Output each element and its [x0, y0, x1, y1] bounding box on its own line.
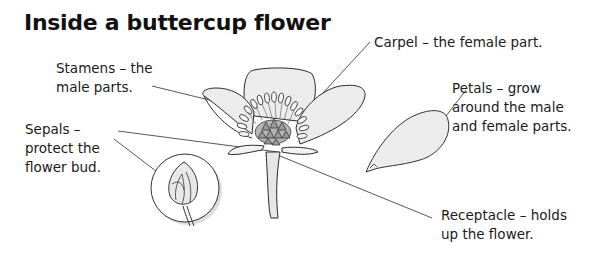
receptacle-label-line: up the flower. [441, 225, 567, 244]
stamens-label: Stamens – the male parts. [56, 59, 153, 97]
petals-label-line: around the male [452, 98, 572, 117]
receptacle-label: Receptacle – holds up the flower. [441, 206, 567, 244]
sepals-label-line: Sepals – [25, 120, 101, 139]
flower-bud-inset-icon [151, 154, 222, 226]
receptacle-leader-line [280, 156, 432, 218]
carpel-label: Carpel – the female part. [374, 33, 542, 52]
stamens-label-line: Stamens – the [56, 59, 153, 78]
sepals-label-line: flower bud. [25, 158, 101, 177]
sepals-label-line: protect the [25, 139, 101, 158]
detached-petal-icon [366, 111, 449, 172]
petals-label-line: and female parts. [452, 117, 572, 136]
buttercup-flower-icon [203, 68, 365, 218]
sepals-label: Sepals – protect the flower bud. [25, 120, 101, 177]
stamens-label-line: male parts. [56, 78, 153, 97]
carpel-label-line: Carpel – the female part. [374, 33, 542, 52]
carpel-icon [255, 119, 291, 145]
petals-label: Petals – grow around the male and female… [452, 79, 572, 136]
petals-label-line: Petals – grow [452, 79, 572, 98]
receptacle-label-line: Receptacle – holds [441, 206, 567, 225]
